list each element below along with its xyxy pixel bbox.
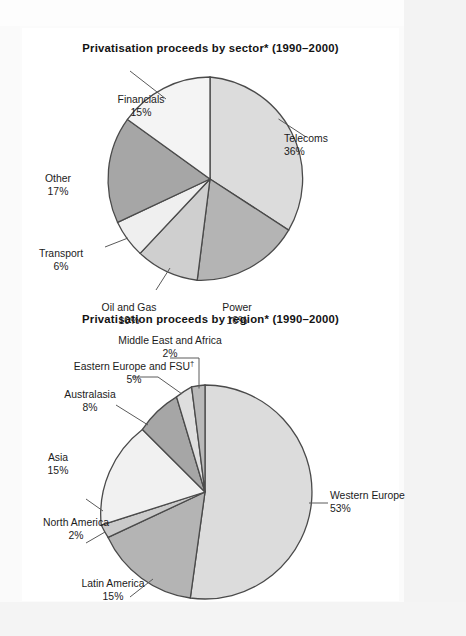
region-label-eastern-europe-and-fsu-text: Eastern Europe and FSU: [74, 361, 190, 372]
leader-line-oil-and-gas: [156, 268, 170, 290]
figure-panel: Privatisation proceeds by sector* (1990–…: [22, 28, 399, 601]
region-label-north-america-pct: 2%: [22, 530, 130, 543]
sector-label-transport-name: Transport: [39, 248, 83, 259]
region-label-eastern-europe-and-fsu: Eastern Europe and FSU† 5%: [58, 361, 210, 386]
region-label-latin-america: Latin America 15%: [60, 578, 166, 603]
region-label-middle-east-and-africa: Middle East and Africa 2%: [98, 335, 242, 360]
page-top-margin: [0, 0, 466, 26]
region-pie-chart: [96, 383, 314, 601]
sector-label-transport: Transport 6%: [22, 248, 100, 273]
scanned-page: Privatisation proceeds by sector* (1990–…: [0, 0, 466, 636]
region-label-middle-east-and-africa-name: Middle East and Africa: [118, 335, 221, 346]
region-label-western-europe-pct: 53%: [330, 503, 405, 516]
sector-label-financials: Financials 15%: [98, 94, 184, 119]
sector-label-other: Other 17%: [28, 173, 88, 198]
pie-slice-western-europe: [190, 385, 312, 599]
region-label-north-america: North America 2%: [22, 517, 130, 542]
region-label-australasia-name: Australasia: [64, 389, 115, 400]
sector-label-financials-name: Financials: [118, 94, 165, 105]
sector-label-telecoms-name: Telecoms: [284, 133, 328, 144]
region-label-middle-east-and-africa-pct: 2%: [98, 348, 242, 361]
region-label-asia-pct: 15%: [30, 465, 86, 478]
region-label-eastern-europe-and-fsu-name: Eastern Europe and FSU†: [74, 361, 194, 372]
leader-line-transport: [105, 238, 128, 247]
sector-label-other-pct: 17%: [28, 186, 88, 199]
region-label-latin-america-pct: 15%: [60, 591, 166, 604]
sector-label-financials-pct: 15%: [98, 107, 184, 120]
sector-label-telecoms: Telecoms 36%: [284, 133, 328, 158]
sector-label-transport-pct: 6%: [22, 261, 100, 274]
region-label-australasia: Australasia 8%: [44, 389, 136, 414]
dagger-footnote-marker: †: [190, 359, 194, 368]
region-label-western-europe-name: Western Europe: [330, 490, 405, 501]
region-label-north-america-name: North America: [43, 517, 109, 528]
sector-label-oil-and-gas-name: Oil and Gas: [102, 302, 157, 313]
region-label-latin-america-name: Latin America: [82, 578, 145, 589]
region-label-asia: Asia 15%: [30, 452, 86, 477]
page-bottom-margin: [0, 602, 466, 636]
region-label-eastern-europe-and-fsu-pct: 5%: [58, 374, 210, 387]
region-label-western-europe: Western Europe 53%: [330, 490, 405, 515]
region-chart-title: Privatisation proceeds by region* (1990–…: [22, 313, 399, 325]
sector-label-power-name: Power: [222, 302, 251, 313]
sector-label-telecoms-pct: 36%: [284, 146, 328, 159]
region-label-australasia-pct: 8%: [44, 402, 136, 415]
page-right-margin: [404, 0, 466, 636]
region-label-asia-name: Asia: [48, 452, 68, 463]
region-pie-svg: [96, 383, 314, 601]
page-left-margin: [0, 0, 20, 636]
sector-label-other-name: Other: [45, 173, 71, 184]
sector-chart-title: Privatisation proceeds by sector* (1990–…: [22, 42, 399, 54]
